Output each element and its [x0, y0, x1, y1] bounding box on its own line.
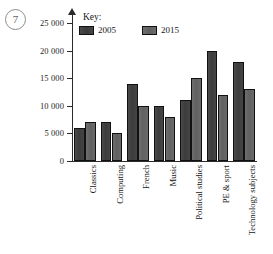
bar	[154, 106, 165, 161]
legend-label-2015: 2015	[161, 25, 179, 36]
x-axis-category-label: PE & sport	[222, 165, 231, 203]
legend-swatch-2005	[79, 26, 94, 35]
x-axis-category-labels: ClassicsComputingFrenchMusicPolitical st…	[72, 163, 258, 254]
bar	[127, 84, 138, 161]
bar	[74, 128, 85, 161]
bar	[218, 95, 229, 161]
y-axis-arrowhead-icon	[68, 8, 76, 15]
x-axis-category-label: Classics	[89, 165, 98, 193]
bar-chart-figure: 05 00010 00015 00020 00025 000 ClassicsC…	[0, 0, 273, 254]
bars-layer	[72, 23, 258, 161]
bar	[207, 51, 218, 161]
y-axis-tick-label: 10 000	[40, 102, 64, 111]
bar	[165, 117, 176, 161]
y-axis-tick	[67, 161, 73, 162]
legend-label-2005: 2005	[98, 25, 116, 36]
y-axis-tick-label: 0	[60, 157, 64, 166]
bar	[138, 106, 149, 161]
chart-legend: Key: 2005 2015	[79, 12, 199, 40]
y-axis-tick-label: 20 000	[40, 47, 64, 56]
bar	[244, 89, 255, 161]
bar	[101, 122, 112, 161]
bar	[180, 100, 191, 161]
bar	[191, 78, 202, 161]
bar	[85, 122, 96, 161]
x-axis-category-label: Political studies	[195, 165, 204, 220]
bar	[233, 62, 244, 161]
y-axis-tick-label: 5 000	[44, 129, 64, 138]
x-axis-category-label: Computing	[116, 165, 125, 204]
legend-swatch-2015	[142, 26, 157, 35]
x-axis-category-label: Technology subjects	[248, 165, 257, 235]
bar	[112, 133, 123, 161]
x-axis-line	[72, 161, 257, 162]
x-axis-category-label: Music	[169, 165, 178, 186]
y-axis-tick-label: 15 000	[40, 74, 64, 83]
y-axis-tick-label: 25 000	[40, 19, 64, 28]
x-axis-category-label: French	[142, 165, 151, 189]
legend-title: Key:	[83, 12, 101, 22]
